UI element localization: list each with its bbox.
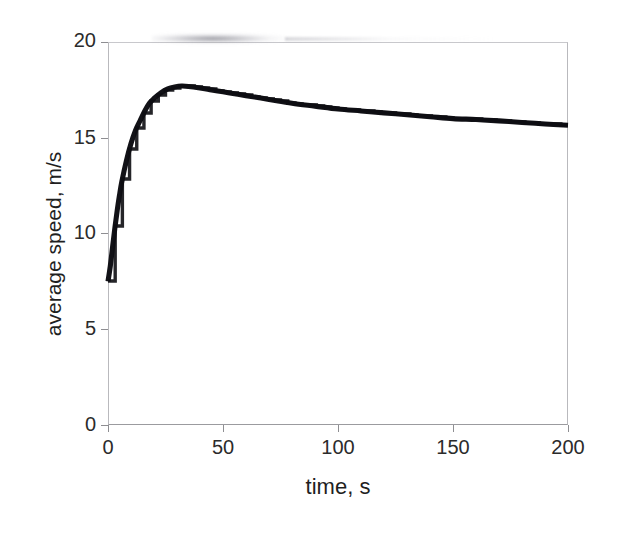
x-tick-mark-50 [223,425,224,432]
y-tick-label-20: 20 [58,30,96,50]
x-tick-mark-200 [568,425,569,432]
y-tick-mark-15 [101,138,108,139]
y-tick-mark-20 [101,42,108,43]
y-tick-label-0: 0 [58,414,96,434]
plot-area [108,42,568,425]
x-axis-title: time, s [108,474,568,500]
x-tick-label-50: 50 [212,436,234,458]
x-tick-mark-100 [338,425,339,432]
scan-smudge-tail-artifact [285,37,495,41]
x-tick-mark-150 [453,425,454,432]
x-tick-label-200: 200 [551,436,584,458]
y-tick-mark-10 [101,233,108,234]
y-tick-mark-0 [101,425,108,426]
x-tick-label-0: 0 [102,436,113,458]
y-axis-title: average speed, m/s [42,94,66,394]
x-tick-mark-0 [108,425,109,432]
y-tick-mark-5 [101,329,108,330]
figure-chart: 20 15 10 5 0 0 50 100 150 200 average sp… [0,0,619,533]
x-tick-label-150: 150 [436,436,469,458]
x-tick-label-100: 100 [321,436,354,458]
